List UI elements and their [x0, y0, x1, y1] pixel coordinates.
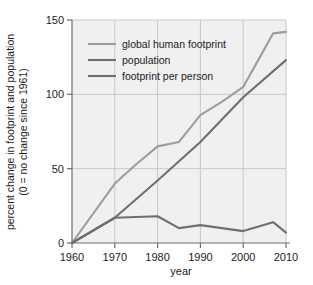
x-axis-title: year: [170, 265, 192, 277]
y-tick-label: 50: [52, 163, 64, 175]
x-tick-label: 2000: [231, 251, 255, 263]
x-tick-label: 1960: [60, 251, 84, 263]
legend-label-1: population: [122, 54, 171, 66]
y-axis-title-line1: percent change in footprint and populati…: [4, 34, 16, 230]
x-tick-marks: [72, 243, 286, 248]
y-axis-title-line2: (0 = no change since 1961): [17, 68, 29, 196]
line-chart: 050100150 196019701980199020002010 year …: [0, 0, 313, 285]
x-tick-label: 1980: [145, 251, 169, 263]
legend-label-2: footprint per person: [122, 70, 213, 82]
plot-panel: [72, 20, 286, 243]
x-tick-label: 1990: [188, 251, 212, 263]
y-tick-labels: 050100150: [46, 14, 64, 249]
y-tick-label: 100: [46, 88, 64, 100]
x-tick-labels: 196019701980199020002010: [60, 251, 298, 263]
y-tick-label: 150: [46, 14, 64, 26]
y-axis-title: percent change in footprint and populati…: [4, 34, 29, 230]
chart-figure: 050100150 196019701980199020002010 year …: [0, 0, 313, 285]
y-tick-marks: [67, 20, 72, 243]
legend-label-0: global human footprint: [122, 38, 226, 50]
x-tick-label: 2010: [274, 251, 298, 263]
y-tick-label: 0: [58, 237, 64, 249]
x-tick-label: 1970: [103, 251, 127, 263]
